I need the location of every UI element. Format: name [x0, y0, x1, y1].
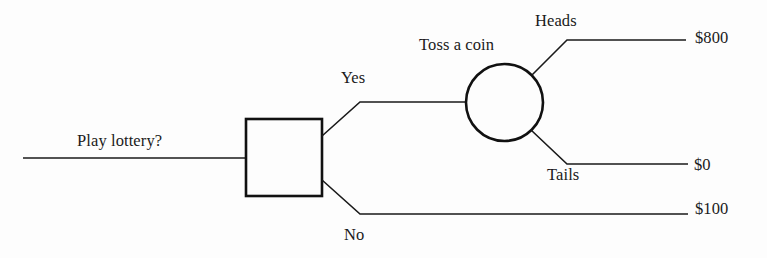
branch-label-tails: Tails	[547, 167, 579, 184]
branch-heads-edge	[532, 40, 686, 75]
decision-node-square[interactable]	[246, 119, 322, 196]
branch-label-yes: Yes	[341, 70, 365, 87]
payoff-value-no: $100	[695, 201, 728, 218]
payoff-value-tails: $0	[694, 157, 711, 174]
tree-graphics	[0, 0, 767, 258]
branch-tails-edge	[531, 130, 688, 164]
chance-node-circle[interactable]	[466, 64, 543, 141]
branch-label-no: No	[344, 227, 364, 244]
decision-tree-diagram: Play lottery? Yes No Toss a coin Heads T…	[0, 0, 767, 258]
payoff-value-heads: $800	[695, 30, 728, 47]
chance-node-label: Toss a coin	[419, 37, 494, 54]
branch-no-edge	[322, 180, 688, 214]
branch-label-heads: Heads	[535, 13, 577, 30]
branch-yes-edge	[322, 102, 466, 136]
root-label: Play lottery?	[77, 133, 162, 150]
